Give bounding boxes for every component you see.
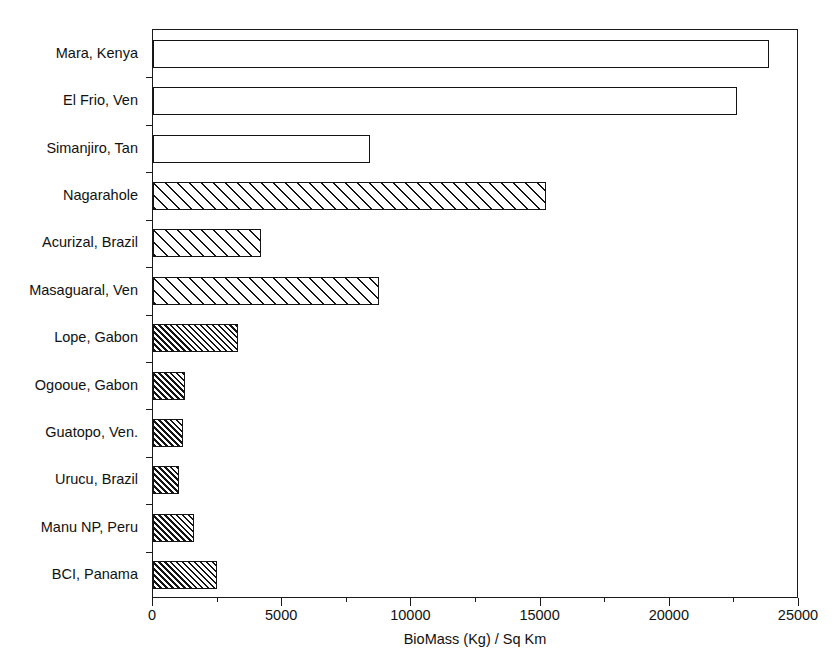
bar [153,229,261,257]
category-label: Urucu, Brazil [55,472,138,487]
category-label: Manu NP, Peru [41,520,138,535]
y-axis-tick [146,125,153,126]
x-axis-minor-tick [604,598,605,602]
x-axis-title: BioMass (Kg) / Sq Km [152,632,798,647]
category-label: Lope, Gabon [54,330,138,345]
bar [153,372,185,400]
bar [153,277,379,305]
category-label: Guatopo, Ven. [45,425,138,440]
bar [153,466,179,494]
y-axis-tick [146,552,153,553]
x-axis-minor-tick [475,598,476,602]
y-axis-tick [146,172,153,173]
category-label: Acurizal, Brazil [42,235,138,250]
x-axis-minor-tick [217,598,218,602]
x-axis-tick-label: 20000 [649,608,689,623]
x-axis-minor-tick [346,598,347,602]
x-axis-tick [798,598,799,606]
bar [153,135,370,163]
bar [153,419,183,447]
x-axis-tick [152,598,153,606]
category-label: Nagarahole [63,188,138,203]
category-label: Masaguaral, Ven [29,283,138,298]
bar [153,40,769,68]
x-axis-tick-label: 0 [148,608,156,623]
category-label: Ogooue, Gabon [35,378,138,393]
biomass-bar-chart: Mara, KenyaEl Frio, VenSimanjiro, TanNag… [0,0,836,661]
category-label: El Frio, Ven [63,93,138,108]
bar [153,182,546,210]
category-label: Simanjiro, Tan [46,141,138,156]
x-axis-tick [281,598,282,606]
y-axis-tick [146,504,153,505]
y-axis-tick [146,457,153,458]
x-axis-tick-label: 15000 [519,608,559,623]
x-axis-tick-label: 5000 [265,608,297,623]
x-axis-tick-label: 10000 [390,608,430,623]
bar [153,561,217,589]
y-axis-tick [146,315,153,316]
category-label: Mara, Kenya [56,46,138,61]
y-axis-tick [146,220,153,221]
y-axis-tick [146,362,153,363]
category-axis-labels: Mara, KenyaEl Frio, VenSimanjiro, TanNag… [0,0,146,661]
y-axis-tick [146,267,153,268]
x-axis-tick [669,598,670,606]
x-axis-tick [540,598,541,606]
bar [153,87,737,115]
category-label: BCI, Panama [52,567,138,582]
y-axis-tick [146,77,153,78]
bar [153,324,238,352]
bar [153,514,194,542]
x-axis-minor-tick [733,598,734,602]
plot-area [152,29,798,598]
y-axis-tick [146,409,153,410]
x-axis-tick-label: 25000 [778,608,818,623]
x-axis-tick [410,598,411,606]
